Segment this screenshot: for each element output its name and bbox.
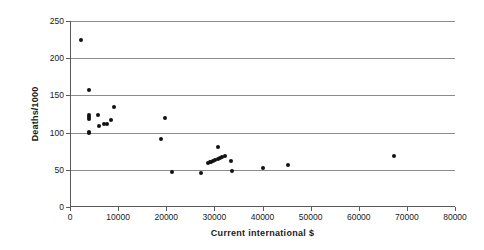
x-tick-label: 20000 [154, 213, 178, 222]
x-tick-mark [118, 207, 119, 211]
x-tick-label: 10000 [106, 213, 130, 222]
y-tick-label: 250 [50, 17, 64, 26]
x-axis-line [70, 206, 455, 207]
data-point [105, 122, 109, 126]
x-tick-label: 50000 [299, 213, 323, 222]
data-point [220, 155, 224, 159]
scatter-chart: 050100150200250 010000200003000040000500… [0, 0, 484, 250]
data-point [216, 145, 220, 149]
y-tick-label: 100 [50, 128, 64, 137]
x-tick-label: 70000 [395, 213, 419, 222]
data-point [79, 38, 83, 42]
y-axis-line [70, 21, 71, 207]
x-tick-label: 60000 [347, 213, 371, 222]
gridline [70, 95, 455, 96]
data-point [87, 131, 91, 135]
x-tick-mark [311, 207, 312, 211]
x-tick-mark [263, 207, 264, 211]
gridline [70, 133, 455, 134]
x-tick-mark [214, 207, 215, 211]
x-tick-mark [359, 207, 360, 211]
x-tick-label: 30000 [203, 213, 227, 222]
x-tick-mark [407, 207, 408, 211]
x-tick-mark [70, 207, 71, 211]
y-tick-label: 150 [50, 91, 64, 100]
x-tick-mark [455, 207, 456, 211]
data-point [96, 113, 100, 117]
y-axis-title: Deaths/1000 [30, 87, 40, 142]
data-point [199, 171, 203, 175]
data-point [87, 117, 91, 121]
data-point [159, 137, 163, 141]
plot-area: 050100150200250 010000200003000040000500… [70, 21, 455, 207]
data-point [392, 154, 396, 158]
gridline [70, 21, 455, 22]
x-tick-label: 0 [68, 213, 73, 222]
data-point [112, 105, 116, 109]
y-tick-label: 200 [50, 54, 64, 63]
data-point [170, 170, 174, 174]
x-tick-label: 80000 [443, 213, 467, 222]
data-point [87, 88, 91, 92]
y-tick-label: 0 [59, 203, 64, 212]
data-point [229, 159, 233, 163]
data-point [97, 124, 101, 128]
data-point [223, 154, 227, 158]
y-tick-label: 50 [55, 166, 64, 175]
x-tick-label: 40000 [251, 213, 275, 222]
x-tick-mark [166, 207, 167, 211]
data-point [286, 163, 290, 167]
x-axis-title: Current international $ [70, 228, 455, 238]
gridline [70, 58, 455, 59]
data-point [163, 116, 167, 120]
data-point [230, 169, 234, 173]
data-point [109, 118, 113, 122]
